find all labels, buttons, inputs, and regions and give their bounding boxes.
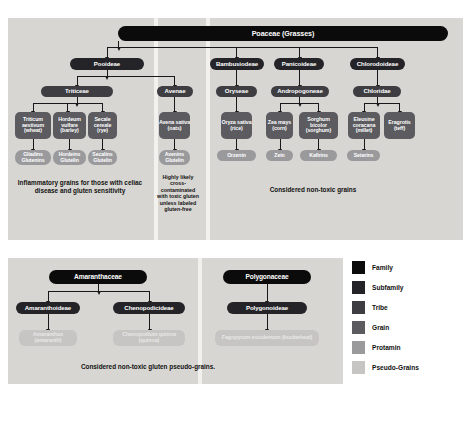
legend-item-pseudo-grains: Pseudo-Grains <box>352 361 419 374</box>
legend-label-protamin: Protamin <box>372 344 401 351</box>
chloridae-stem <box>377 97 378 103</box>
pseudograin-node-fagopyrum[interactable]: Fagopyrum esculentum (buckwheat) <box>215 330 319 346</box>
arrow-to-avenae <box>174 76 175 85</box>
tribe-node-triticeae[interactable]: Triticeae <box>41 86 113 97</box>
subfamily-node-pooideae[interactable]: Pooideae <box>70 58 144 70</box>
arrow-to-hordeum <box>67 103 68 111</box>
arrow-to-panicoideae <box>299 47 300 57</box>
arrow-to-zein <box>280 139 281 149</box>
protamin-node-setarins[interactable]: Setarins <box>347 150 380 161</box>
arrow-to-orzenin <box>236 139 237 149</box>
family-stem <box>118 41 119 47</box>
grasses-panel: Poaceae (Grasses) Pooideae Bambusiodeae … <box>8 18 463 240</box>
tribe-node-avenae[interactable]: Avenae <box>157 86 193 97</box>
pooideae-stem <box>107 70 108 76</box>
subfamily-node-panicoideae[interactable]: Panicoideae <box>274 58 324 70</box>
protamin-node-avenins[interactable]: Avenins Glutelin <box>159 150 190 165</box>
tribe-node-chloridae[interactable]: Chloridae <box>353 86 401 97</box>
arrow-to-gliadins <box>33 139 34 149</box>
protamin-node-orzenin[interactable]: Orzenin <box>217 150 256 161</box>
subfamily-node-chenopodicideae[interactable]: Chenopodicideae <box>113 302 185 314</box>
arrow-to-triticum <box>33 103 34 111</box>
legend-label-tribe: Tribe <box>372 304 388 311</box>
arrow-to-bambusiodeae <box>236 47 237 57</box>
grain-node-eleusine[interactable]: Eleusine coracana (millet) <box>348 112 380 139</box>
legend-label-pseudo-grains: Pseudo-Grains <box>372 364 419 371</box>
caption-non-toxic-pseudograins: Considered non-toxic gluten pseudo-grain… <box>33 363 263 371</box>
legend-item-protamin: Protamin <box>352 341 401 354</box>
arrow-to-triticeae <box>77 76 78 85</box>
legend-swatch-grain <box>352 321 365 334</box>
tribe-node-andropogoneae[interactable]: Andropogoneae <box>271 86 329 97</box>
pseudograin-node-chenopodium[interactable]: Chenopodium quinoa (quinoa) <box>113 330 185 346</box>
subfamily-node-amaranthoideae[interactable]: Amaranthoideae <box>16 302 80 314</box>
arrow-to-chenopodicideae <box>149 291 150 301</box>
protamin-node-zein[interactable]: Zein <box>266 150 293 161</box>
arrow-to-secale <box>102 103 103 111</box>
legend-swatch-protamin <box>352 341 365 354</box>
legend-label-subfamily: Subfamily <box>372 284 404 291</box>
family-node-amaranthaceae[interactable]: Amaranthaceae <box>49 270 147 284</box>
arrow-to-sorghum <box>318 103 319 111</box>
arrow-to-kafirins <box>318 139 319 149</box>
pseudograin-node-amaranthus[interactable]: Amaranthus (amaranth) <box>19 330 77 346</box>
family-branch-bar <box>107 47 378 48</box>
legend-item-tribe: Tribe <box>352 301 388 314</box>
legend-item-family: Family <box>352 261 393 274</box>
arrow-to-hordeins <box>69 139 70 149</box>
legend-swatch-tribe <box>352 301 365 314</box>
amaranthaceae-stem <box>98 284 99 291</box>
arrow-to-fagopyrum <box>267 314 268 329</box>
legend-swatch-pseudo-grains <box>352 361 365 374</box>
arrow-to-secalins <box>102 139 103 149</box>
caption-inflammatory-grains: Inflammatory grains for those with celia… <box>14 179 146 195</box>
arrow-to-setarins <box>364 139 365 149</box>
tribe-node-oryseae[interactable]: Oryseae <box>216 86 257 97</box>
grain-node-sorghum[interactable]: Sorghum bicolor (sorghum) <box>299 112 338 139</box>
legend-swatch-subfamily <box>352 281 365 294</box>
arrow-to-pooideae <box>107 47 108 57</box>
arrow-to-amaranthoideae <box>48 291 49 301</box>
chloridae-branch-bar <box>364 103 400 104</box>
grain-node-avena[interactable]: Avena sativa (oats) <box>159 112 190 139</box>
panel-divider-2 <box>206 18 210 240</box>
caption-non-toxic-grains: Considered non-toxic grains <box>238 186 388 194</box>
legend-label-family: Family <box>372 264 393 271</box>
arrow-to-eragrotis <box>399 103 400 111</box>
arrow-to-avenins <box>174 139 175 149</box>
legend-item-grain: Grain <box>352 321 389 334</box>
subfamily-node-chlorodoideae[interactable]: Chlorodoideae <box>350 58 405 70</box>
legend-label-grain: Grain <box>372 324 389 331</box>
protamin-node-hordeins[interactable]: Hordeins Glutelin <box>53 150 86 165</box>
legend: Family Subfamily Tribe Grain Protamin Ps… <box>352 258 464 384</box>
arrow-to-amaranthus <box>48 314 49 329</box>
protamin-node-secalins[interactable]: Secalins Glutelin <box>88 150 117 165</box>
arrow-to-chenopodium <box>149 314 150 329</box>
grain-node-triticum[interactable]: Triticum aestivum (wheat) <box>15 112 51 139</box>
grain-node-secale[interactable]: Secale cereale (rye) <box>88 112 117 139</box>
legend-item-subfamily: Subfamily <box>352 281 404 294</box>
arrow-to-zea <box>280 103 281 111</box>
arrow-to-oryseae <box>236 70 237 85</box>
subfamily-node-polygonoideae[interactable]: Polygonoideae <box>227 302 307 314</box>
grain-node-oryza[interactable]: Oryza sativa (rice) <box>221 112 252 139</box>
pseudo-grains-panel: Amaranthaceae Polygonaceae Amaranthoidea… <box>8 258 343 384</box>
triticeae-stem <box>77 97 78 103</box>
arrow-to-avena <box>174 97 175 111</box>
grain-node-hordeum[interactable]: Hordeum vulfare (barley) <box>53 112 86 139</box>
arrow-to-oryza <box>236 97 237 111</box>
arrow-to-andropogoneae <box>299 70 300 85</box>
caption-cross-contaminated: Highly likely cross-contaminated with to… <box>156 174 200 213</box>
grain-node-zea[interactable]: Zea mays (corn) <box>266 112 293 139</box>
grain-node-eragrotis[interactable]: Eragrotis (teff) <box>384 112 415 139</box>
subfamily-node-bambusiodeae[interactable]: Bambusiodeae <box>210 58 264 70</box>
arrow-to-chloridae <box>377 70 378 85</box>
protamin-node-gliadins[interactable]: Gliadins Glutenins <box>15 150 51 165</box>
pooideae-branch-bar <box>77 76 175 77</box>
arrow-to-polygonoideae <box>267 284 268 301</box>
arrow-to-eleusine <box>364 103 365 111</box>
protamin-node-kafirins[interactable]: Kafirins <box>300 150 337 161</box>
family-node-poaceae[interactable]: Poaceae (Grasses) <box>118 26 448 41</box>
family-node-polygonaceae[interactable]: Polygonaceae <box>223 270 311 284</box>
andropogoneae-stem <box>299 97 300 103</box>
